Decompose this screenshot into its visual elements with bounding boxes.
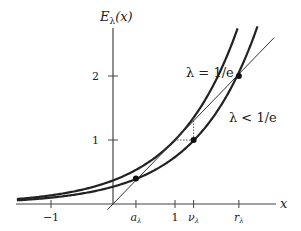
x-tick-label: νλ [188, 211, 199, 225]
point-a-lambda [133, 175, 139, 181]
point-r-lambda [236, 73, 242, 79]
x-tick-label: aλ [130, 211, 141, 225]
x-tick-label: rλ [234, 211, 244, 225]
curve-lambda-eq-1-over-e [17, 28, 238, 199]
x-tick-label: 1 [172, 211, 179, 224]
point-ν-lambda [191, 137, 197, 143]
y-axis-label: Eλ(x) [99, 9, 133, 26]
annotation-lambda-lt: λ < 1/e [229, 110, 277, 125]
labels: λ = 1/e λ < 1/e [186, 65, 277, 125]
x-tick-label: −1 [43, 211, 59, 224]
curve-lambda-lt-1-over-e [17, 26, 258, 200]
annotation-lambda-eq: λ = 1/e [186, 65, 234, 80]
diagram: xEλ(x)−1aλ1νλrλ12 λ = 1/e λ < 1/e [0, 0, 301, 231]
x-axis-label: x [280, 196, 288, 211]
y-tick-label: 1 [92, 134, 99, 147]
y-tick-label: 2 [92, 70, 99, 83]
